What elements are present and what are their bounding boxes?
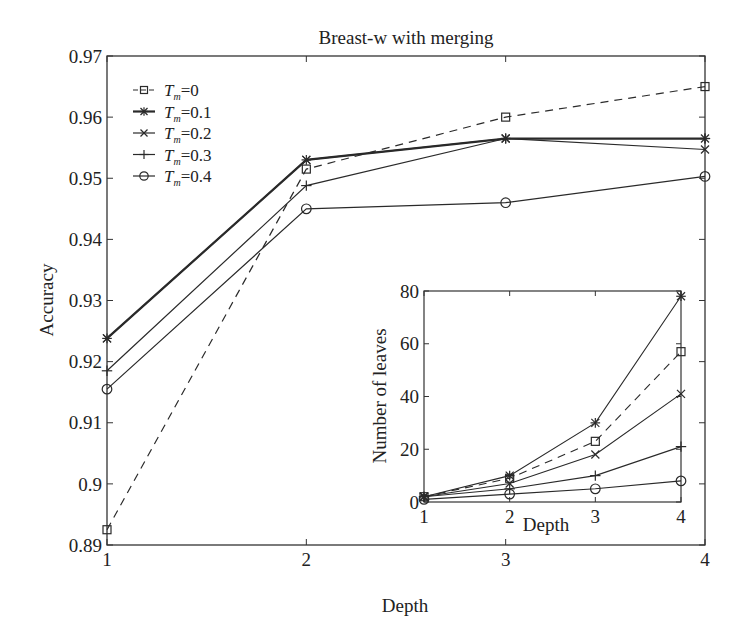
- x-tick-label: 3: [591, 506, 601, 527]
- legend-label: Tm=0.3: [164, 146, 212, 167]
- x-tick-label: 1: [419, 506, 429, 527]
- asterisk-marker-icon: [591, 418, 601, 428]
- y-tick-label: 0.95: [69, 168, 102, 189]
- y-tick-label: 0: [410, 492, 420, 513]
- main-x-label: Depth: [382, 595, 429, 616]
- x-tick-label: 2: [505, 506, 515, 527]
- x-tick-label: 4: [700, 549, 710, 570]
- inset-x-label: Depth: [523, 514, 570, 535]
- x-tick-label: 1: [102, 549, 112, 570]
- y-tick-label: 40: [400, 386, 419, 407]
- asterisk-marker-icon: [505, 471, 515, 481]
- legend-item: Tm=0.2: [133, 124, 212, 145]
- legend-label: Tm=0.2: [164, 124, 212, 145]
- legend-label: Tm=0: [164, 81, 199, 102]
- y-tick-label: 0.92: [69, 351, 102, 372]
- x-tick-label: 4: [676, 506, 686, 527]
- y-tick-label: 0.91: [69, 412, 102, 433]
- legend-item: Tm=0.4: [133, 167, 212, 188]
- y-tick-label: 0.9: [78, 474, 102, 495]
- y-tick-label: 60: [400, 333, 419, 354]
- chart-title: Breast-w with merging: [319, 27, 494, 48]
- x-tick-label: 2: [302, 549, 312, 570]
- y-tick-label: 0.94: [69, 229, 103, 250]
- y-tick-label: 80: [400, 281, 419, 302]
- legend: Tm=0Tm=0.1Tm=0.2Tm=0.3Tm=0.4: [133, 81, 212, 188]
- asterisk-marker-icon: [676, 291, 686, 301]
- inset-y-label: Number of leaves: [369, 328, 390, 463]
- x-tick-label: 3: [501, 549, 511, 570]
- y-tick-label: 0.97: [69, 46, 102, 67]
- legend-item: Tm=0.3: [133, 146, 212, 167]
- y-tick-label: 0.93: [69, 290, 102, 311]
- plus-marker-icon: [139, 150, 148, 159]
- inset-background: [424, 291, 681, 502]
- legend-label: Tm=0.4: [164, 167, 212, 188]
- legend-item: Tm=0.1: [133, 103, 212, 124]
- main-y-label: Accuracy: [36, 263, 57, 336]
- y-tick-label: 20: [400, 439, 419, 460]
- legend-label: Tm=0.1: [164, 103, 212, 124]
- legend-item: Tm=0: [133, 81, 199, 102]
- chart: Breast-w with merging 0.890.90.910.920.9…: [0, 0, 741, 621]
- asterisk-marker-icon: [140, 107, 148, 115]
- y-tick-label: 0.89: [69, 535, 102, 556]
- y-tick-label: 0.96: [69, 107, 102, 128]
